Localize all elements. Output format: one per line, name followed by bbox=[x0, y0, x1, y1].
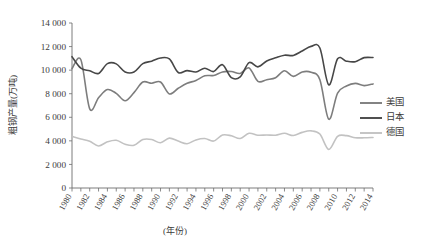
x-tick-label: 2006 bbox=[287, 191, 305, 211]
y-tick-labels: 02 0004 0006 0008 00010 00012 00014 000 bbox=[41, 18, 67, 193]
y-axis-group: 02 0004 0006 0008 00010 00012 00014 000 … bbox=[7, 18, 72, 193]
legend-label-日本[interactable]: 日本 bbox=[386, 111, 405, 122]
y-tick-label: 8 000 bbox=[45, 89, 66, 99]
x-tick-label: 1990 bbox=[145, 192, 162, 212]
data-series-group bbox=[72, 44, 373, 149]
x-tick-labels: 1980198219841986198819901992199419961998… bbox=[56, 191, 375, 211]
x-axis-title: (年份) bbox=[163, 225, 187, 236]
x-tick-label: 1986 bbox=[110, 191, 128, 211]
line-chart: 02 0004 0006 0008 00010 00012 00014 000 … bbox=[0, 0, 437, 244]
chart-figure: 02 0004 0006 0008 00010 00012 00014 000 … bbox=[0, 0, 437, 244]
x-tick-label: 1984 bbox=[92, 191, 110, 211]
x-tick-label: 2004 bbox=[269, 191, 287, 211]
series-line-德国 bbox=[72, 131, 373, 150]
legend-label-德国[interactable]: 德国 bbox=[386, 126, 404, 137]
x-tick-label: 1982 bbox=[74, 192, 91, 212]
y-tick-label: 6 000 bbox=[45, 112, 66, 122]
x-tick-label: 1998 bbox=[216, 192, 233, 212]
x-tick-label: 2012 bbox=[340, 192, 357, 212]
y-tick-label: 14 000 bbox=[41, 18, 67, 28]
x-tick-label: 2008 bbox=[304, 192, 321, 212]
series-line-日本 bbox=[72, 44, 373, 84]
x-tick-label: 1994 bbox=[180, 191, 198, 211]
x-axis-group: 1980198219841986198819901992199419961998… bbox=[56, 188, 375, 236]
x-tick-label: 1996 bbox=[198, 191, 216, 211]
x-tick-label: 2014 bbox=[357, 191, 375, 211]
chart-legend: 美国日本德国 bbox=[360, 96, 405, 137]
y-tick-label: 12 000 bbox=[41, 42, 67, 52]
y-tick-label: 10 000 bbox=[41, 65, 67, 75]
series-line-美国 bbox=[72, 58, 373, 119]
y-tick-label: 4 000 bbox=[45, 136, 66, 146]
x-tick-label: 2010 bbox=[322, 192, 339, 212]
x-tick-label: 2000 bbox=[234, 192, 251, 212]
y-tick-label: 0 bbox=[61, 183, 66, 193]
x-tick-marks bbox=[72, 188, 373, 192]
x-tick-label: 1980 bbox=[56, 192, 73, 212]
x-tick-label: 1988 bbox=[127, 192, 144, 212]
y-tick-label: 2 000 bbox=[45, 160, 66, 170]
x-tick-label: 2002 bbox=[251, 192, 268, 212]
legend-label-美国[interactable]: 美国 bbox=[386, 96, 404, 107]
x-tick-label: 1992 bbox=[163, 192, 180, 212]
y-axis-title: 粗钢产量(万吨) bbox=[7, 75, 18, 135]
